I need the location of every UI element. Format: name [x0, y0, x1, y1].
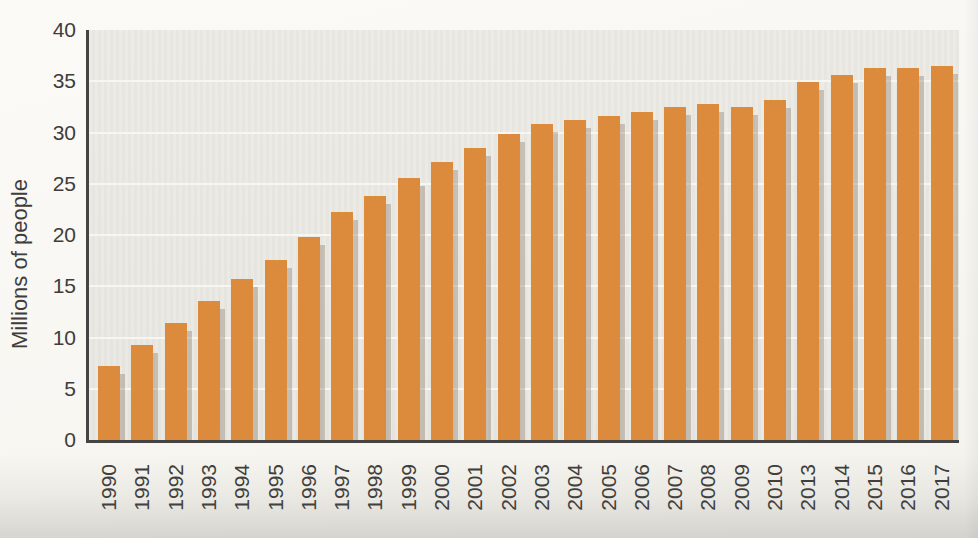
- bar-1994: [231, 279, 253, 440]
- x-tick-label-2017: 2017: [930, 464, 954, 534]
- scan-shadow-right: [964, 0, 978, 538]
- bar-1999: [398, 178, 420, 440]
- x-tick-label-2005: 2005: [597, 464, 621, 534]
- x-tick-label-2008: 2008: [696, 464, 720, 534]
- bar-1992: [165, 323, 187, 440]
- bar-2016: [897, 68, 919, 440]
- x-tick-label-2000: 2000: [430, 464, 454, 534]
- bar-2006: [631, 112, 653, 440]
- x-tick-label-1990: 1990: [97, 464, 121, 534]
- x-tick-label-2006: 2006: [630, 464, 654, 534]
- bar-2008: [697, 104, 719, 440]
- x-tick-label-1996: 1996: [297, 464, 321, 534]
- x-tick-label-2001: 2001: [463, 464, 487, 534]
- x-tick-label-2015: 2015: [863, 464, 887, 534]
- bar-2014: [831, 75, 853, 440]
- y-tick-label-35: 35: [24, 68, 76, 94]
- bar-2002: [498, 134, 520, 440]
- y-tick-label-20: 20: [24, 222, 76, 248]
- x-tick-label-1999: 1999: [397, 464, 421, 534]
- x-tick-label-2002: 2002: [497, 464, 521, 534]
- bar-2007: [664, 107, 686, 440]
- y-tick-label-15: 15: [24, 273, 76, 299]
- x-tick-label-1998: 1998: [363, 464, 387, 534]
- bar-2001: [464, 148, 486, 440]
- x-tick-label-2016: 2016: [896, 464, 920, 534]
- bar-2009: [731, 107, 753, 440]
- y-tick-label-10: 10: [24, 325, 76, 351]
- x-tick-label-1992: 1992: [164, 464, 188, 534]
- x-tick-label-1993: 1993: [197, 464, 221, 534]
- x-tick-label-2014: 2014: [830, 464, 854, 534]
- bar-1993: [198, 301, 220, 440]
- bar-2013: [797, 82, 819, 440]
- x-tick-label-2004: 2004: [563, 464, 587, 534]
- x-tick-label-2003: 2003: [530, 464, 554, 534]
- bar-2015: [864, 68, 886, 440]
- bar-1990: [98, 366, 120, 440]
- x-tick-label-2013: 2013: [796, 464, 820, 534]
- plot-area: [86, 30, 959, 443]
- bar-2010: [764, 100, 786, 440]
- gridline-30: [89, 132, 959, 134]
- x-tick-label-1995: 1995: [264, 464, 288, 534]
- bar-1997: [331, 212, 353, 440]
- y-tick-label-5: 5: [24, 376, 76, 402]
- bar-1996: [298, 237, 320, 440]
- bar-2004: [564, 120, 586, 440]
- bar-1998: [364, 196, 386, 440]
- bar-2005: [598, 116, 620, 440]
- bar-chart: Millions of people 051015202530354019901…: [0, 0, 978, 538]
- x-tick-label-1997: 1997: [330, 464, 354, 534]
- bar-2003: [531, 124, 553, 440]
- x-tick-label-1994: 1994: [230, 464, 254, 534]
- x-tick-label-2009: 2009: [730, 464, 754, 534]
- x-tick-label-1991: 1991: [130, 464, 154, 534]
- y-tick-label-40: 40: [24, 17, 76, 43]
- bar-2017: [931, 66, 953, 440]
- bar-1991: [131, 345, 153, 440]
- bar-1995: [265, 260, 287, 440]
- y-tick-label-0: 0: [24, 427, 76, 453]
- x-tick-label-2007: 2007: [663, 464, 687, 534]
- x-tick-label-2010: 2010: [763, 464, 787, 534]
- y-tick-label-30: 30: [24, 120, 76, 146]
- bar-2000: [431, 162, 453, 440]
- y-tick-label-25: 25: [24, 171, 76, 197]
- gridline-35: [89, 80, 959, 82]
